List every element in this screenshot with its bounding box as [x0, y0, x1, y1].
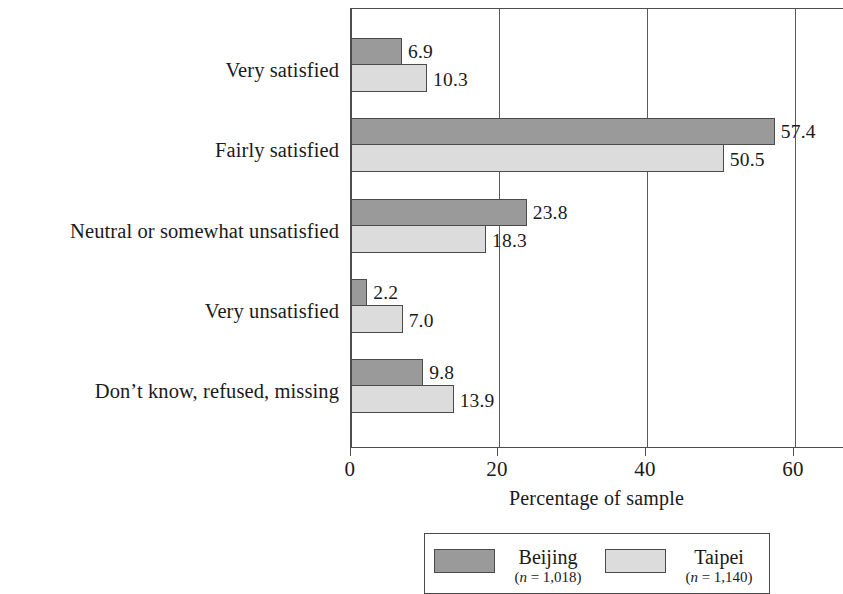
x-tick-0: [350, 447, 351, 456]
bar-beijing-fairly-satisfied: [351, 118, 775, 145]
bar-taipei-dont-know-refused-missing: [351, 385, 454, 413]
legend-entry-taipei: Taipei (n = 1,140): [605, 546, 762, 586]
category-label-very-unsatisfied: Very unsatisfied: [0, 299, 339, 323]
bar-beijing-very-unsatisfied: [351, 279, 367, 306]
bar-taipei-very-satisfied: [351, 64, 427, 92]
bar-chart-figure: 0 20 40 60 Percentage of sample Very sat…: [0, 0, 843, 594]
gridline-40: [647, 9, 648, 448]
legend-n-beijing-var: n: [519, 569, 527, 585]
x-tick-label-0: 0: [320, 456, 380, 482]
value-label-beijing-very-unsatisfied: 2.2: [373, 282, 398, 304]
category-label-neutral-or-somewhat-unsatisfied: Neutral or somewhat unsatisfied: [0, 219, 339, 243]
bar-taipei-very-unsatisfied: [351, 305, 403, 333]
legend-n-taipei-rest: = 1,140): [698, 569, 753, 585]
bar-beijing-dont-know-refused-missing: [351, 359, 423, 386]
x-tick-60: [793, 447, 794, 456]
category-label-dont-know-refused-missing: Don’t know, refused, missing: [0, 379, 339, 403]
value-label-beijing-neutral-or-somewhat-unsatisfied: 23.8: [533, 202, 568, 224]
value-label-taipei-very-satisfied: 10.3: [433, 69, 468, 91]
legend-swatch-beijing: [434, 549, 495, 573]
bar-beijing-neutral-or-somewhat-unsatisfied: [351, 199, 527, 226]
value-label-taipei-fairly-satisfied: 50.5: [730, 149, 765, 171]
x-tick-40: [645, 447, 646, 456]
legend-label-taipei: Taipei: [676, 546, 762, 568]
x-axis-title: Percentage of sample: [350, 487, 843, 510]
bar-beijing-very-satisfied: [351, 38, 402, 65]
legend-n-beijing: (n = 1,018): [505, 568, 591, 586]
value-label-beijing-dont-know-refused-missing: 9.8: [429, 362, 454, 384]
category-label-very-satisfied: Very satisfied: [0, 58, 339, 82]
legend-n-taipei: (n = 1,140): [676, 568, 762, 586]
legend-n-taipei-var: n: [690, 569, 698, 585]
category-label-fairly-satisfied: Fairly satisfied: [0, 138, 339, 162]
value-label-taipei-very-unsatisfied: 7.0: [409, 310, 434, 332]
value-label-taipei-dont-know-refused-missing: 13.9: [460, 390, 495, 412]
legend-label-beijing: Beijing: [505, 546, 591, 568]
x-tick-label-20: 20: [467, 456, 527, 482]
gridline-20: [499, 9, 500, 448]
legend-n-beijing-rest: = 1,018): [527, 569, 582, 585]
bar-taipei-neutral-or-somewhat-unsatisfied: [351, 225, 486, 253]
x-tick-label-40: 40: [615, 456, 675, 482]
gridline-60: [795, 9, 796, 448]
legend-swatch-taipei: [605, 549, 666, 573]
value-label-beijing-very-satisfied: 6.9: [408, 41, 433, 63]
x-tick-label-60: 60: [763, 456, 823, 482]
x-tick-20: [497, 447, 498, 456]
legend: Beijing (n = 1,018) Taipei (n = 1,140): [424, 533, 770, 594]
legend-entry-beijing: Beijing (n = 1,018): [434, 546, 591, 586]
value-label-beijing-fairly-satisfied: 57.4: [781, 121, 816, 143]
value-label-taipei-neutral-or-somewhat-unsatisfied: 18.3: [492, 230, 527, 252]
x-axis-baseline: [350, 447, 843, 448]
bar-taipei-fairly-satisfied: [351, 144, 724, 172]
